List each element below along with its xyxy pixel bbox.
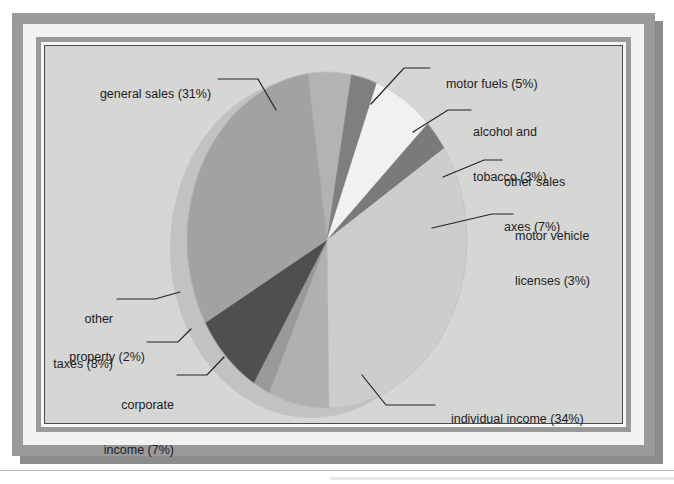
page-rule-line-secondary bbox=[330, 477, 674, 480]
label-individual-income-text: individual income (34%) bbox=[451, 412, 584, 426]
label-alcohol-tobacco-line1: alcohol and bbox=[473, 125, 547, 140]
label-general-sales: general sales (31%) bbox=[86, 72, 211, 117]
label-motor-vehicle-licenses: motor vehicle licenses (3%) bbox=[515, 199, 590, 319]
label-individual-income: individual income (34%) bbox=[437, 397, 584, 442]
label-other-taxes-line1: other bbox=[53, 312, 113, 327]
scanned-page: general sales (31%) motor fuels (5%) alc… bbox=[0, 0, 674, 484]
label-corporate-income: corporate income (7%) bbox=[104, 368, 174, 484]
label-motor-vehicle-licenses-line2: licenses (3%) bbox=[515, 274, 590, 289]
page-rule-line bbox=[0, 470, 674, 471]
label-general-sales-text: general sales (31%) bbox=[100, 87, 211, 101]
label-corporate-income-line2: income (7%) bbox=[104, 443, 174, 458]
label-corporate-income-line1: corporate bbox=[104, 398, 174, 413]
label-motor-fuels-text: motor fuels (5%) bbox=[446, 77, 538, 91]
label-property-text: property (2%) bbox=[69, 350, 145, 364]
label-motor-vehicle-licenses-line1: motor vehicle bbox=[515, 229, 590, 244]
label-other-sales-axes-line1: other sales bbox=[504, 175, 565, 190]
